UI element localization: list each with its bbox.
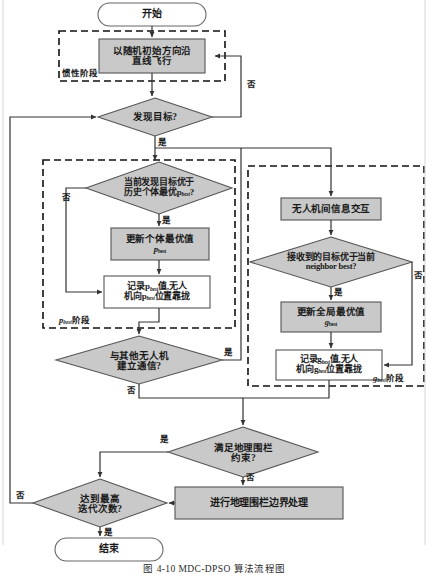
edge-label-maxiter-no: 否 [16, 491, 25, 500]
edge-record-pbest-to-comm [139, 308, 159, 334]
edge-maxiter-no [10, 117, 96, 503]
figure-caption: 图 4-10 MDC-DPSO 算法流程图 [0, 561, 429, 575]
edge-label-maxiter-yes: 是 [104, 528, 113, 537]
node-end [55, 538, 163, 561]
node-found-target [98, 98, 212, 136]
node-start [98, 3, 206, 26]
node-inertia-fly [99, 39, 205, 73]
edge-label-pbest-yes: 是 [162, 216, 171, 225]
node-comm-with-others [56, 336, 222, 384]
edge-label-found-yes: 是 [158, 138, 167, 147]
stage-label-gbest: gbest阶段 [373, 374, 404, 383]
edge-label-nbest-yes: 是 [334, 288, 343, 297]
edge-geofence-yes [100, 452, 168, 477]
node-update-pbest [111, 228, 209, 260]
edge-label-nbest-no: 否 [414, 271, 423, 280]
node-record-pbest [104, 276, 210, 308]
node-geofence-handle [175, 487, 343, 519]
node-uav-info-exchange [281, 198, 381, 220]
node-update-gbest [281, 302, 381, 332]
edge-found-no [212, 56, 241, 117]
edge-nbest-no [384, 262, 412, 365]
edge-label-pbest-no: 否 [62, 193, 71, 202]
node-better-than-nbest [250, 237, 412, 287]
edge-label-geofence-no: 否 [246, 473, 255, 482]
node-better-than-pbest [86, 162, 232, 214]
stage-label-inertia: 惯性阶段 [62, 69, 98, 78]
node-geofence-ok [168, 427, 318, 477]
edge-label-geofence-yes: 是 [160, 435, 169, 444]
edge-comm-no [139, 384, 243, 398]
node-max-iter [33, 479, 167, 527]
edge-label-comm-no: 否 [127, 386, 136, 395]
edge-label-found-no: 否 [247, 80, 256, 89]
edge-pbest-no [66, 188, 102, 292]
node-record-gbest [276, 350, 382, 380]
stage-label-pbest: pbest阶段 [59, 316, 90, 325]
edge-label-comm-yes: 是 [224, 348, 233, 357]
